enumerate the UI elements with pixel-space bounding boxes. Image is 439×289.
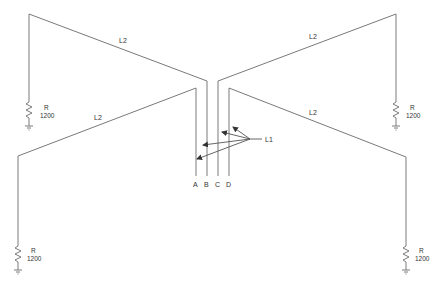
- l1-label: L1: [265, 136, 273, 143]
- lower-right-wire: [229, 88, 406, 244]
- resistor-name-bottom-left: R: [31, 247, 36, 254]
- l2-label-top-right: L2: [309, 33, 317, 40]
- ground-icon: [392, 126, 400, 130]
- resistor-top-right: [392, 100, 400, 130]
- resistor-bottom-left: [14, 244, 22, 274]
- resistor-bottom-right: [402, 244, 410, 274]
- resistor-top-left: [25, 100, 33, 130]
- ground-icon: [402, 270, 410, 274]
- terminal-a-label: A: [193, 181, 198, 188]
- ground-icon: [14, 270, 22, 274]
- upper-left-wire: [29, 14, 207, 176]
- l2-label-top-left: L2: [119, 37, 127, 44]
- ground-icon: [25, 126, 33, 130]
- resistor-value-top-left: 1200: [40, 112, 55, 119]
- resistor-name-top-right: R: [410, 104, 415, 111]
- terminal-b-label: B: [204, 181, 209, 188]
- l2-label-bottom-left: L2: [94, 114, 102, 121]
- resistor-value-top-right: 1200: [406, 112, 421, 119]
- resistor-value-bottom-left: 1200: [27, 255, 42, 262]
- upper-right-wire: [218, 14, 396, 176]
- resistor-name-bottom-right: R: [419, 247, 424, 254]
- resistor-name-top-left: R: [44, 104, 49, 111]
- antenna-diagram: L1 L2 L2 L2 L2 A B C D R 1200 R 1200 R 1…: [0, 0, 439, 289]
- resistor-value-bottom-right: 1200: [415, 255, 430, 262]
- l2-label-bottom-right: L2: [309, 109, 317, 116]
- terminal-c-label: C: [215, 181, 220, 188]
- terminal-d-label: D: [226, 181, 231, 188]
